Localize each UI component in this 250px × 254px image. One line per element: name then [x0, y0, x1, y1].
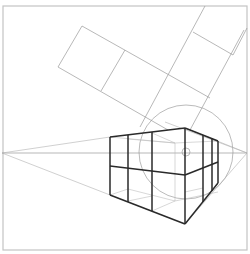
perspective-diagram [0, 0, 250, 254]
perspective-box [110, 128, 218, 224]
left-vanishing-lines [2, 137, 110, 195]
frame-border [3, 6, 247, 250]
center-of-vision-marker [182, 148, 190, 156]
right-vanishing-lines [165, 122, 247, 224]
rotated-plan-grid [58, 6, 247, 130]
diagram-canvas [0, 0, 250, 254]
